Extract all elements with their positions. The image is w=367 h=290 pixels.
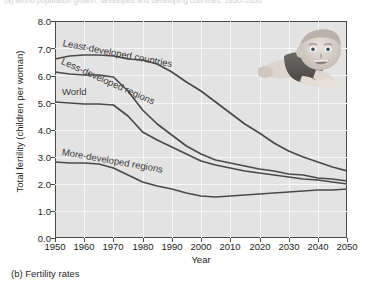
x-tick-10: 2050 — [330, 241, 364, 252]
plot-area: Least-developed countries Less-developed… — [55, 21, 347, 238]
x-tick-6: 2010 — [213, 241, 247, 252]
y-tick-4: 4.0 — [25, 126, 51, 136]
figure-caption: (b) Fertility rates — [11, 268, 80, 279]
top-caption: (a) World population growth, developed a… — [4, 0, 364, 6]
y-tick-6: 6.0 — [25, 72, 51, 82]
y-tick-3: 3.0 — [25, 153, 51, 163]
y-tick-8: 8.0 — [25, 17, 51, 27]
line-world — [55, 102, 347, 184]
y-tick-2: 2.0 — [25, 180, 51, 190]
x-axis-ticks: 1950 1960 1970 1980 1990 2000 2010 2020 … — [0, 241, 367, 255]
x-tick-2: 1970 — [96, 241, 130, 252]
series-label-world: World — [62, 86, 87, 97]
y-axis-label: Total fertility (children per woman) — [14, 17, 25, 227]
fertility-rates-figure: (a) World population growth, developed a… — [0, 0, 367, 290]
y-tick-7: 7.0 — [25, 45, 51, 55]
x-axis-label: Year — [55, 254, 347, 265]
y-tick-1: 1.0 — [25, 207, 51, 217]
y-tick-5: 5.0 — [25, 99, 51, 109]
